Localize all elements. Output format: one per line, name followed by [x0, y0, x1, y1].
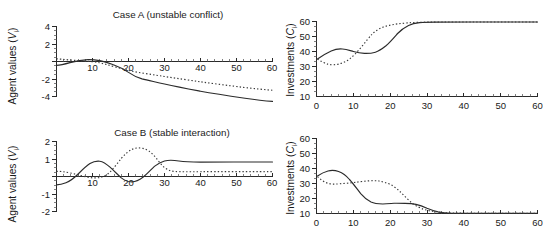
y-axis-label: Investments (Ci) [285, 141, 299, 215]
y-tick-label: -1 [42, 189, 50, 200]
y-tick-label: 10 [299, 91, 310, 102]
panel-case-b-investments: Investments (Ci) [280, 118, 559, 237]
x-tick-label: 10 [87, 62, 98, 73]
chart-case-b-agent-values: Agent values (Vi) Case B (stable interac… [0, 118, 279, 237]
y-tick-label: 4 [45, 21, 50, 32]
y-tick-label: 20 [299, 76, 310, 87]
y-tick-label: 40 [299, 46, 310, 57]
panel-title: Case A (unstable conflict) [113, 9, 224, 20]
x-tick-label: 60 [267, 177, 278, 188]
y-axis-major-ticks [52, 27, 57, 97]
y-tick-label: 30 [299, 61, 310, 72]
y-axis-label-close: ) [285, 141, 296, 144]
x-tick-label: 10 [87, 177, 98, 188]
x-tick-label: 40 [195, 177, 206, 188]
x-tick-label: 10 [348, 100, 359, 111]
y-tick-label: -2 [42, 74, 50, 85]
y-tick-label: 50 [299, 148, 310, 159]
y-tick-label: 50 [299, 31, 310, 42]
y-axis-label-close: ) [7, 28, 18, 31]
y-tick-label: 1 [45, 154, 50, 165]
x-tick-label: 30 [422, 217, 433, 228]
x-tick-label: 60 [267, 62, 278, 73]
panel-title: Case B (stable interaction) [114, 127, 229, 138]
y-axis-major-ticks [312, 139, 317, 199]
x-axis-major-ticks [93, 58, 273, 62]
y-tick-label: 10 [299, 208, 310, 219]
x-tick-label: 0 [314, 100, 319, 111]
y-tick-label: 60 [299, 133, 310, 144]
series-line-dotted [318, 177, 538, 214]
x-tick-label: 30 [159, 62, 170, 73]
y-tick-label: 30 [299, 178, 310, 189]
x-tick-label: 20 [123, 177, 134, 188]
y-axis-label: Agent values (Vi) [7, 28, 21, 105]
x-tick-label: 60 [532, 217, 543, 228]
chart-case-a-agent-values: Agent values (Vi) Case A (unstable confl… [0, 0, 279, 118]
panel-case-b-agent-values: Agent values (Vi) Case B (stable interac… [0, 118, 279, 237]
chart-case-b-investments: Investments (Ci) [280, 118, 559, 237]
y-axis-label: Investments (Ci) [285, 23, 299, 97]
chart-case-a-investments: Investments (Ci) [280, 0, 559, 118]
figure-four-panel-plot: Agent values (Vi) Case A (unstable confl… [0, 0, 559, 237]
x-tick-label: 40 [195, 62, 206, 73]
y-axis-major-ticks [312, 22, 317, 82]
x-tick-label: 30 [159, 177, 170, 188]
x-tick-label: 50 [231, 177, 242, 188]
y-tick-label: 40 [299, 163, 310, 174]
panel-case-a-investments: Investments (Ci) [280, 0, 559, 118]
panel-case-a-agent-values: Agent values (Vi) Case A (unstable confl… [0, 0, 279, 118]
x-tick-label: 10 [348, 217, 359, 228]
y-axis-label-text: Investments ( [285, 153, 296, 215]
y-axis-label-close: ) [7, 146, 18, 149]
y-tick-label: 60 [299, 16, 310, 27]
y-axis-label-close: ) [285, 23, 296, 26]
x-tick-label: 20 [385, 217, 396, 228]
x-tick-label: 40 [459, 100, 470, 111]
y-axis-label: Agent values (Vi) [7, 146, 21, 223]
x-tick-label: 30 [422, 100, 433, 111]
x-axis-major-ticks [317, 93, 538, 97]
y-axis-major-ticks [52, 142, 57, 212]
y-tick-label: 2 [45, 136, 50, 147]
x-tick-label: 50 [495, 217, 506, 228]
series-line-solid [318, 170, 538, 213]
x-tick-label: 50 [231, 62, 242, 73]
y-tick-label: -4 [42, 91, 50, 102]
x-tick-label: 20 [385, 100, 396, 111]
x-tick-label: 40 [459, 217, 470, 228]
x-tick-label: 0 [314, 217, 319, 228]
y-tick-label: 20 [299, 193, 310, 204]
series-line-solid [318, 22, 538, 59]
y-tick-label: -2 [42, 206, 50, 217]
y-axis-label-text: Agent values ( [7, 157, 18, 223]
x-tick-label: 50 [495, 100, 506, 111]
series-line-dotted [318, 22, 538, 65]
x-tick-label: 60 [532, 100, 543, 111]
y-axis-label-text: Investments ( [285, 35, 296, 97]
y-axis-label-text: Agent values ( [7, 39, 18, 105]
y-tick-label: 2 [45, 39, 50, 50]
